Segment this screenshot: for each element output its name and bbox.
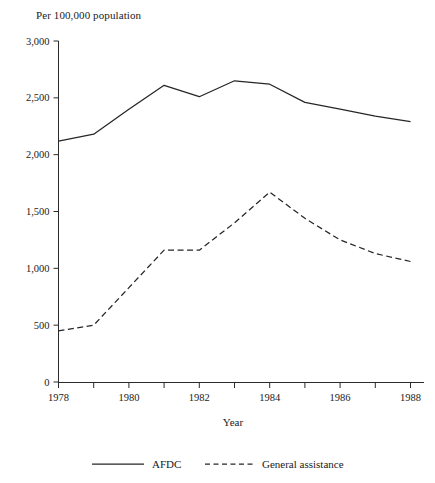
legend-label: AFDC [152, 458, 181, 470]
x-tick-label: 1982 [189, 392, 210, 403]
x-tick-label: 1988 [400, 392, 421, 403]
x-tick-label: 1986 [330, 392, 351, 403]
y-axis-ticks: 05001,0001,5002,0002,5003,000 [26, 36, 59, 388]
series-line [59, 81, 411, 141]
x-tick-label: 1978 [48, 392, 69, 403]
y-tick-label: 3,000 [26, 36, 50, 47]
y-tick-label: 1,500 [26, 206, 50, 217]
y-tick-label: 1,000 [26, 263, 50, 274]
y-tick-label: 0 [44, 377, 49, 388]
x-axis-ticks: 197819801982198419861988 [48, 382, 421, 403]
y-tick-label: 2,500 [26, 92, 50, 103]
x-axis-title: Year [223, 416, 244, 428]
x-tick-label: 1984 [259, 392, 281, 403]
y-tick-label: 500 [34, 320, 50, 331]
chart-figure: Per 100,000 population 05001,0001,5002,0… [0, 0, 435, 483]
chart-legend: AFDCGeneral assistance [92, 458, 344, 470]
y-tick-label: 2,000 [26, 149, 50, 160]
chart-plot-area: 05001,0001,5002,0002,5003,000 1978198019… [0, 0, 435, 483]
series-layer [59, 81, 411, 331]
x-tick-label: 1980 [118, 392, 139, 403]
legend-label: General assistance [262, 458, 344, 470]
series-line [59, 192, 411, 331]
